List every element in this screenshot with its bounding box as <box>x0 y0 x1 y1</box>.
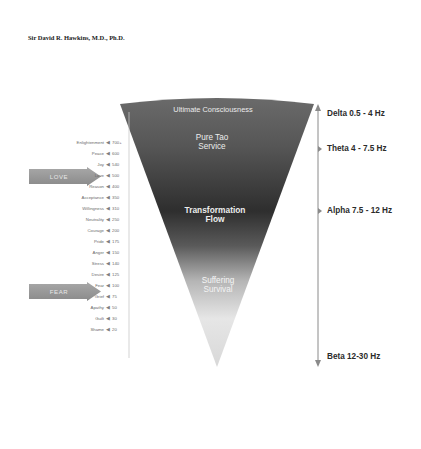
scale-level-joy: Joy◀540 <box>60 160 138 168</box>
scale-level-guilt: Guilt◀30 <box>60 314 138 322</box>
label-pure-tao-service: Pure Tao Service <box>196 134 229 151</box>
marker-icon: ◀ <box>104 139 112 145</box>
marker-icon: ◀ <box>104 304 112 310</box>
axis-arrow-up-icon <box>315 104 321 111</box>
scale-level-apathy: Apathy◀50 <box>60 303 138 311</box>
marker-icon: ◀ <box>104 205 112 211</box>
scale-level-anger: Anger◀150 <box>60 248 138 256</box>
marker-icon: ◀ <box>104 172 112 178</box>
scale-level-peace: Peace◀600 <box>60 149 138 157</box>
marker-icon: ◀ <box>104 161 112 167</box>
alpha-pointer-icon <box>318 208 322 214</box>
label-ultimate-consciousness: Ultimate Consciousness <box>173 106 252 114</box>
scale-level-willingness: Willingness◀310 <box>60 204 138 212</box>
scale-level-grief: Grief◀75 <box>60 292 138 300</box>
scale-level-courage: Courage◀200 <box>60 226 138 234</box>
marker-icon: ◀ <box>104 293 112 299</box>
brainwave-alpha: Alpha 7.5 - 12 Hz <box>327 206 392 215</box>
marker-icon: ◀ <box>104 216 112 222</box>
funnel-graphic <box>0 0 421 449</box>
scale-level-shame: Shame◀20 <box>60 325 138 333</box>
theta-pointer-icon <box>318 146 322 152</box>
marker-icon: ◀ <box>104 227 112 233</box>
brainwave-theta: Theta 4 - 7.5 Hz <box>327 144 387 153</box>
marker-icon: ◀ <box>104 150 112 156</box>
marker-icon: ◀ <box>104 260 112 266</box>
brainwave-beta: Beta 12-30 Hz <box>327 352 380 361</box>
scale-level-acceptance: Acceptance◀350 <box>60 193 138 201</box>
scale-level-love: Love◀500 <box>60 171 138 179</box>
brainwave-delta: Delta 0.5 - 4 Hz <box>327 109 385 118</box>
marker-icon: ◀ <box>104 315 112 321</box>
marker-icon: ◀ <box>104 271 112 277</box>
marker-icon: ◀ <box>104 194 112 200</box>
marker-icon: ◀ <box>104 238 112 244</box>
marker-icon: ◀ <box>104 326 112 332</box>
scale-level-reason: Reason◀400 <box>60 182 138 190</box>
scale-level-neutrality: Neutrality◀250 <box>60 215 138 223</box>
scale-level-stress: Stress◀140 <box>60 259 138 267</box>
marker-icon: ◀ <box>104 183 112 189</box>
marker-icon: ◀ <box>104 249 112 255</box>
axis-arrow-down-icon <box>315 360 321 367</box>
label-suffering-survival: Suffering Survival <box>202 277 235 294</box>
scale-level-fear: Fear◀100 <box>60 281 138 289</box>
marker-icon: ◀ <box>104 282 112 288</box>
scale-level-enlightenment: Enlightenment◀700+ <box>60 138 138 146</box>
scale-level-pride: Pride◀175 <box>60 237 138 245</box>
scale-level-desire: Desire◀125 <box>60 270 138 278</box>
consciousness-map-diagram: Sir David R. Hawkins, M.D., Ph.D. <box>0 0 421 449</box>
label-transformation-flow: Transformation Flow <box>185 206 246 224</box>
